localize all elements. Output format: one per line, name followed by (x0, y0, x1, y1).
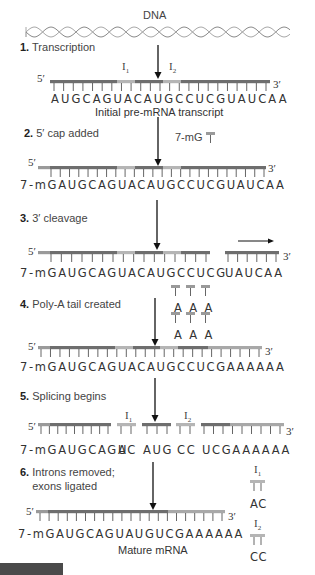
step-6-label: 6. Introns removed; exons ligated (20, 465, 115, 493)
five-prime-6: 5′ (26, 505, 34, 517)
segment-intron-2: CC (177, 443, 196, 457)
sequence-4: 7-mGAUGCAGUACAUGCCUCGAAAAAA (20, 360, 285, 374)
three-prime-3: 3′ (283, 250, 291, 262)
intron-1-label: I1 (122, 60, 129, 75)
removed-intron-2-label: I2 (254, 517, 261, 532)
sequence-2: 7-mGAUGCAGUACAUGCCUCGUAUCAA (20, 178, 285, 192)
intron-2-label: I2 (169, 60, 176, 75)
segment-exon-1: 7-mGAUGCAGU (20, 443, 128, 457)
sequence-1: AUGCAGUACAUGCCUCGUAUCAA (51, 92, 289, 106)
sequence-3: 7-mGAUGCAGUACAUGCCUCG (20, 266, 227, 280)
footer-bar (0, 563, 63, 575)
poly-a-row-1: A A A (174, 301, 212, 315)
segment-exon-3: UCGAAAAAA (202, 443, 291, 457)
three-prime-5: 3′ (286, 425, 294, 437)
sequence-6: 7-mGAUGCAGUAUGUCGAAAAAA (18, 527, 244, 541)
step-5-label: 5. Splicing begins (20, 390, 106, 402)
three-prime-2: 3′ (268, 162, 276, 174)
step-4-label: 4. Poly-A tail created (20, 298, 121, 310)
intron-1-label-5: I1 (125, 409, 132, 424)
step-1-label: 1. Transcription (20, 41, 95, 53)
five-prime-3: 5′ (28, 245, 36, 257)
removed-intron-1-label: I1 (254, 463, 261, 478)
segment-exon-2: AUG (143, 443, 173, 457)
poly-a-row-2: A A A (174, 328, 212, 342)
removed-intron-2-seq: CC (250, 550, 267, 564)
five-prime-2: 5′ (28, 156, 36, 168)
cap-label: 7-mG (175, 131, 203, 143)
five-prime-1: 5′ (37, 72, 45, 84)
intron-2-label-5: I2 (184, 409, 191, 424)
removed-intron-1-seq: AC (250, 497, 267, 511)
five-prime-4: 5′ (28, 340, 36, 352)
caption-pre-mrna: Initial pre-mRNA transcript (95, 106, 223, 118)
step-3-label: 3. 3′ cleavage (20, 212, 88, 224)
segment-intron-1: AC (118, 443, 137, 457)
three-prime-1: 3′ (273, 78, 281, 90)
five-prime-5: 5′ (28, 420, 36, 432)
step-2-label: 2. 5′ cap added (24, 127, 99, 139)
cleaved-fragment: UAUCAA (225, 266, 284, 280)
three-prime-4: 3′ (265, 345, 273, 357)
caption-mature-mrna: Mature mRNA (118, 544, 188, 556)
three-prime-6: 3′ (228, 510, 236, 522)
